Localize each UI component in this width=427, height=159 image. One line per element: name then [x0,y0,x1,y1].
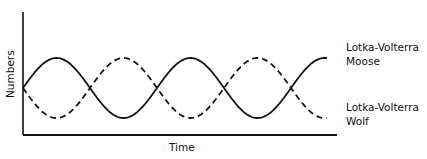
y-axis-label: Numbers [4,50,16,98]
legend-moose-line1: Lotka-Volterra [346,40,419,54]
legend-wolf-line2: Wolf [346,114,419,128]
x-axis-label: Time [169,141,195,153]
legend-moose-line2: Moose [346,54,419,68]
moose-series-line [23,58,327,118]
legend-wolf: Lotka-Volterra Wolf [346,100,419,128]
population-chart [0,0,427,159]
wolf-series-line [23,58,327,118]
legend-wolf-line1: Lotka-Volterra [346,100,419,114]
legend-moose: Lotka-Volterra Moose [346,40,419,68]
